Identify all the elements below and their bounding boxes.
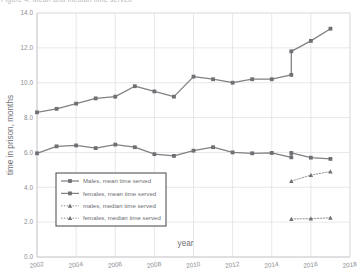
x-tick-label: 2002 (29, 260, 45, 269)
chart-figure: Figure 4. Mean and median time served 0.… (0, 0, 358, 272)
data-point-marker (68, 192, 72, 196)
y-tick-label: 8.0 (24, 114, 33, 121)
data-point-marker (133, 84, 137, 88)
legend-item-label: females, median time served (83, 214, 161, 221)
data-point-marker (55, 144, 59, 148)
data-point-marker (270, 77, 274, 81)
data-point-marker (329, 157, 333, 161)
y-tick-label: 14.0 (21, 9, 34, 16)
data-point-marker (250, 77, 254, 81)
data-point-marker (35, 110, 39, 114)
data-point-marker (192, 149, 196, 153)
x-tick-label: 2004 (68, 260, 84, 269)
data-point-marker (231, 81, 235, 85)
legend-item-label: Males, mean time served (83, 177, 151, 184)
data-point-marker (68, 179, 72, 183)
x-tick-label: 2018 (342, 260, 358, 269)
y-tick-label: 4.0 (24, 184, 33, 191)
data-point-marker (211, 77, 215, 81)
data-point-marker (94, 146, 98, 150)
data-point-marker (133, 145, 137, 149)
data-point-marker (289, 73, 293, 77)
data-point-marker (289, 151, 293, 155)
y-tick-label: 2.0 (24, 218, 33, 225)
data-point-marker (113, 143, 117, 147)
data-point-marker (55, 107, 59, 111)
x-tick-label: 2006 (107, 260, 123, 269)
data-point-marker (172, 154, 176, 158)
data-point-marker (172, 95, 176, 99)
line-chart-canvas: 0.02.04.06.08.010.012.014.02002200420062… (0, 0, 358, 272)
data-point-marker (35, 151, 39, 155)
data-point-marker (74, 144, 78, 148)
data-point-marker (309, 156, 313, 160)
y-tick-label: 12.0 (21, 44, 34, 51)
data-point-marker (329, 27, 333, 31)
y-tick-label: 0.0 (24, 253, 33, 260)
legend-item-label: males, median time served (83, 202, 156, 209)
data-point-marker (74, 102, 78, 106)
x-axis-title: year (178, 239, 194, 248)
data-point-marker (94, 97, 98, 101)
data-point-marker (289, 155, 293, 159)
data-point-marker (289, 49, 293, 53)
data-point-marker (309, 39, 313, 43)
x-tick-label: 2016 (303, 260, 319, 269)
x-tick-label: 2010 (186, 260, 202, 269)
data-point-marker (152, 90, 156, 94)
data-point-marker (152, 152, 156, 156)
y-axis-title: time in prison, months (6, 95, 15, 175)
y-tick-label: 10.0 (21, 79, 34, 86)
x-tick-label: 2014 (264, 260, 280, 269)
x-tick-label: 2012 (225, 260, 241, 269)
data-point-marker (231, 151, 235, 155)
x-tick-label: 2008 (146, 260, 162, 269)
y-tick-label: 6.0 (24, 149, 33, 156)
data-point-marker (113, 95, 117, 99)
data-point-marker (250, 151, 254, 155)
data-point-marker (211, 145, 215, 149)
data-point-marker (270, 151, 274, 155)
data-point-marker (192, 75, 196, 79)
legend-item-label: females, mean time served (83, 190, 156, 197)
